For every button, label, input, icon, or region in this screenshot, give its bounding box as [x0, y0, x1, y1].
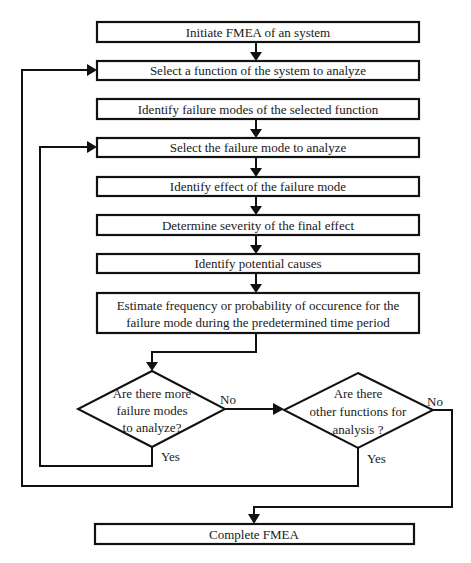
decision-1-yes-label: Yes	[161, 449, 180, 464]
step-select-function-label: Select a function of the system to analy…	[150, 63, 366, 78]
edge-estimate-frequency-to-decision-1	[146, 333, 256, 371]
decision-2-no-label: No	[427, 394, 443, 409]
step-identify-effect-label: Identify effect of the failure mode	[170, 179, 346, 194]
step-select-failure-mode: Select the failure mode to analyze	[97, 138, 419, 157]
step-estimate-frequency: Estimate frequency or probability of occ…	[97, 293, 419, 333]
edge-identify-effect-to-determine-severity	[250, 196, 262, 215]
decision-more-failure-modes-line1: Are there more	[113, 386, 192, 401]
edge-determine-severity-to-identify-causes	[250, 235, 262, 254]
arrowhead-icon	[87, 141, 97, 153]
step-initiate: Initiate FMEA of an system	[97, 22, 419, 42]
decision-more-failure-modes-line3: to analyze?	[123, 420, 182, 435]
decision-other-functions-line1: Are there	[334, 386, 383, 401]
edge-decision-1-no: No	[220, 392, 284, 416]
step-complete: Complete FMEA	[95, 524, 414, 544]
step-determine-severity-label: Determine severity of the final effect	[162, 218, 355, 233]
decision-more-failure-modes: Are there more failure modes to analyze?	[78, 371, 225, 447]
step-select-failure-mode-label: Select the failure mode to analyze	[170, 140, 347, 155]
decision-1-no-label: No	[220, 392, 236, 407]
arrowhead-icon	[250, 168, 262, 177]
edge-identify-failure-modes-to-select-failure-mode	[250, 119, 262, 138]
step-complete-label: Complete FMEA	[209, 527, 300, 542]
arrowhead-icon	[87, 64, 97, 76]
step-select-function: Select a function of the system to analy…	[97, 61, 419, 80]
decision-other-functions-line3: analysis ?	[333, 422, 384, 437]
decision-other-functions-line2: other functions for	[310, 404, 407, 419]
step-identify-causes: Identify potential causes	[97, 254, 419, 273]
arrowhead-icon	[250, 52, 262, 61]
decision-other-functions: Are there other functions for analysis ?	[284, 373, 433, 448]
step-identify-failure-modes-label: Identify failure modes of the selected f…	[138, 102, 379, 117]
step-estimate-frequency-label-line2: failure mode during the predetermined ti…	[126, 315, 390, 330]
edge-initiate-to-select-function	[250, 42, 262, 61]
decision-more-failure-modes-line2: failure modes	[116, 403, 187, 418]
arrowhead-icon	[250, 206, 262, 215]
step-identify-effect: Identify effect of the failure mode	[97, 177, 419, 196]
step-identify-failure-modes: Identify failure modes of the selected f…	[97, 99, 419, 119]
arrowhead-icon	[146, 362, 158, 371]
step-determine-severity: Determine severity of the final effect	[97, 215, 419, 235]
arrowhead-icon	[250, 284, 262, 293]
arrowhead-icon	[250, 129, 262, 138]
arrowhead-icon	[248, 514, 260, 524]
step-identify-causes-label: Identify potential causes	[194, 256, 321, 271]
arrowhead-icon	[273, 403, 284, 415]
step-initiate-label: Initiate FMEA of an system	[186, 25, 330, 40]
decision-2-yes-label: Yes	[367, 451, 386, 466]
step-estimate-frequency-label-line1: Estimate frequency or probability of occ…	[117, 298, 400, 313]
fmea-flowchart: Initiate FMEA of an system Select a func…	[0, 0, 471, 563]
edge-identify-causes-to-estimate-frequency	[250, 273, 262, 293]
edge-select-failure-mode-to-identify-effect	[250, 157, 262, 177]
arrowhead-icon	[250, 245, 262, 254]
